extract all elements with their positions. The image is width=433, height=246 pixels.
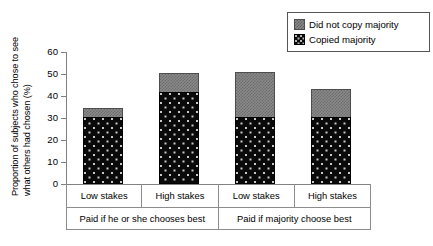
y-tick-label-50: 50 [36, 69, 58, 79]
x-axis-category-table: Low stakes High stakes Low stakes High s… [66, 184, 371, 230]
bar-segment-copied [311, 117, 351, 184]
y-tick-label-0: 0 [36, 179, 58, 189]
legend-item-copied-majority[interactable]: Copied majority [294, 32, 424, 47]
y-tick-label-20: 20 [36, 135, 58, 145]
bar-high-stakes-individual[interactable] [159, 73, 199, 184]
chart-legend: Did not copy majority Copied majority [287, 12, 430, 52]
x-group-label-majority: Paid if majority choose best [219, 208, 372, 230]
bar-segment-did-not-copy [83, 108, 123, 117]
bar-high-stakes-majority[interactable] [311, 89, 351, 184]
stacked-bar-chart: Proportion of subjects who chose to see … [0, 0, 433, 246]
plot-area [66, 52, 370, 184]
x-axis-group-row: Paid if he or she chooses best Paid if m… [66, 208, 371, 230]
bar-segment-copied [159, 92, 199, 184]
checkered-gray-swatch-icon [294, 19, 305, 30]
x-axis-stake-row: Low stakes High stakes Low stakes High s… [66, 184, 371, 208]
x-group-label-individual: Paid if he or she chooses best [66, 208, 219, 230]
bar-segment-did-not-copy [159, 73, 199, 92]
bar-low-stakes-majority[interactable] [235, 72, 275, 184]
y-tick-label-10: 10 [36, 157, 58, 167]
legend-item-did-not-copy-majority[interactable]: Did not copy majority [294, 17, 424, 32]
bar-low-stakes-individual[interactable] [83, 108, 123, 184]
y-tick-label-40: 40 [36, 91, 58, 101]
legend-label-did-not-copy-majority: Did not copy majority [309, 19, 399, 30]
y-axis-title-line-2: what others had chosen (%) [22, 84, 33, 196]
dotted-black-swatch-icon [294, 34, 305, 45]
y-axis-title-line-1: Proportion of subjects who chose to see [10, 37, 21, 196]
bar-segment-did-not-copy [311, 89, 351, 117]
bar-segment-copied [83, 117, 123, 184]
y-tick-label-30: 30 [36, 113, 58, 123]
x-label-high-stakes-majority: High stakes [295, 184, 371, 208]
y-axis-title: Proportion of subjects who chose to see … [0, 28, 32, 196]
x-label-low-stakes-individual: Low stakes [66, 184, 142, 208]
x-label-high-stakes-individual: High stakes [142, 184, 218, 208]
x-label-low-stakes-majority: Low stakes [219, 184, 295, 208]
y-tick-label-60: 60 [36, 47, 58, 57]
legend-label-copied-majority: Copied majority [309, 34, 376, 45]
bar-segment-copied [235, 117, 275, 184]
bar-segment-did-not-copy [235, 72, 275, 117]
